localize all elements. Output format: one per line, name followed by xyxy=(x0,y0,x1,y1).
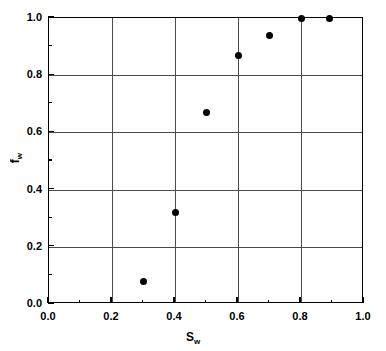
gridline-vertical xyxy=(112,18,113,302)
x-tick-major xyxy=(173,297,174,303)
gridline-vertical xyxy=(301,18,302,302)
x-tick-minor xyxy=(268,300,269,304)
x-tick-label: 0.2 xyxy=(91,310,131,322)
gridline-vertical xyxy=(238,18,239,302)
x-axis-title-subscript: w xyxy=(194,337,200,346)
y-tick-minor xyxy=(48,274,52,275)
y-tick-major xyxy=(48,302,54,303)
x-tick-label: 0.4 xyxy=(154,310,194,322)
y-tick-label: 0.8 xyxy=(6,68,42,80)
x-tick-minor xyxy=(79,300,80,304)
y-tick-label: 0.2 xyxy=(6,240,42,252)
y-tick-major xyxy=(48,74,54,75)
y-tick-label: 0.0 xyxy=(6,297,42,309)
y-tick-label: 1.0 xyxy=(6,11,42,23)
gridline-horizontal xyxy=(49,75,362,76)
plot-area xyxy=(48,17,363,303)
x-tick-label: 0.8 xyxy=(280,310,320,322)
gridline-vertical xyxy=(175,18,176,302)
y-tick-major xyxy=(48,245,54,246)
x-tick-major xyxy=(362,297,363,303)
data-point xyxy=(172,209,179,216)
x-tick-label: 1.0 xyxy=(343,310,383,322)
gridline-horizontal xyxy=(49,132,362,133)
x-tick-label: 0.6 xyxy=(217,310,257,322)
y-tick-minor xyxy=(48,159,52,160)
gridline-horizontal xyxy=(49,247,362,248)
y-tick-minor xyxy=(48,45,52,46)
y-axis-title-subscript: w xyxy=(15,153,24,159)
y-tick-major xyxy=(48,188,54,189)
x-axis-title-base: S xyxy=(186,330,194,344)
y-tick-major xyxy=(48,131,54,132)
y-axis-title-base: f xyxy=(8,159,22,163)
x-axis-title: Sw xyxy=(0,330,386,346)
y-tick-label: 0.4 xyxy=(6,183,42,195)
x-tick-minor xyxy=(331,300,332,304)
x-tick-major xyxy=(110,297,111,303)
data-point xyxy=(298,15,305,22)
y-tick-minor xyxy=(48,217,52,218)
data-point xyxy=(266,32,273,39)
x-tick-major xyxy=(299,297,300,303)
y-tick-minor xyxy=(48,102,52,103)
x-tick-minor xyxy=(142,300,143,304)
data-point xyxy=(203,109,210,116)
gridline-horizontal xyxy=(49,190,362,191)
x-tick-label: 0.0 xyxy=(28,310,68,322)
fractional-flow-chart: 0.00.20.40.60.81.0 0.00.20.40.60.81.0 Sw… xyxy=(0,0,386,351)
data-point xyxy=(140,278,147,285)
y-tick-major xyxy=(48,16,54,17)
x-tick-major xyxy=(236,297,237,303)
data-point xyxy=(235,52,242,59)
data-point xyxy=(326,15,333,22)
x-tick-minor xyxy=(205,300,206,304)
y-axis-title: fw xyxy=(8,138,24,178)
y-tick-label: 0.6 xyxy=(6,125,42,137)
